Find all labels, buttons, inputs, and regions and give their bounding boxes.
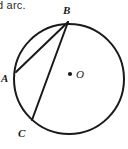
geometry-figure-screenshot: d arc. O A B C [0, 0, 128, 149]
circle-diagram: O A B C [0, 0, 128, 149]
point-label-a: A [0, 72, 8, 84]
center-point-dot [68, 72, 72, 76]
center-label-o: O [76, 68, 84, 80]
point-label-b: B [62, 4, 70, 16]
point-label-c: C [18, 127, 26, 139]
main-circle [14, 24, 124, 134]
